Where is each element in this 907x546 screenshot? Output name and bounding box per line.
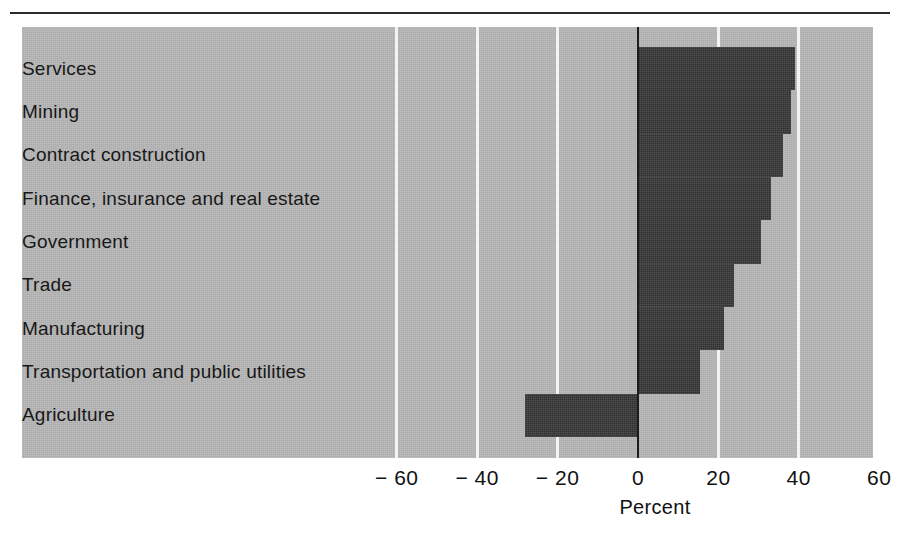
bar	[638, 90, 791, 133]
chart-figure: ServicesMiningContract constructionFinan…	[0, 0, 907, 546]
category-label: Contract construction	[22, 144, 206, 166]
x-tick-label: − 60	[375, 466, 418, 490]
bar	[638, 220, 761, 263]
category-label: Finance, insurance and real estate	[22, 188, 320, 210]
category-label: Manufacturing	[22, 318, 145, 340]
zero-axis-line	[637, 27, 639, 458]
category-label: Mining	[22, 101, 79, 123]
x-tick-label: − 20	[536, 466, 579, 490]
x-tick-label: 20	[706, 466, 730, 490]
bar	[638, 177, 771, 220]
gridline	[395, 27, 398, 458]
x-axis-title: Percent	[619, 496, 690, 519]
x-tick-label: − 40	[455, 466, 498, 490]
bar	[638, 264, 734, 307]
gridline	[476, 27, 479, 458]
top-divider-rule	[10, 12, 890, 14]
category-label: Services	[22, 58, 96, 80]
bar	[638, 307, 724, 350]
bar	[638, 47, 795, 90]
category-label: Agriculture	[22, 404, 115, 426]
category-label: Transportation and public utilities	[22, 361, 306, 383]
x-tick-label: 60	[867, 466, 891, 490]
category-label: Government	[22, 231, 129, 253]
x-tick-label: 40	[787, 466, 811, 490]
gridline	[797, 27, 800, 458]
bar	[525, 394, 638, 437]
bar	[638, 134, 783, 177]
category-label: Trade	[22, 274, 72, 296]
x-tick-label: 0	[632, 466, 644, 490]
plot-area	[22, 27, 873, 458]
bar	[638, 350, 700, 393]
